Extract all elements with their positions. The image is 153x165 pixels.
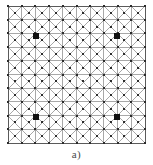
marker-top-right bbox=[114, 33, 120, 39]
figure-caption: a) bbox=[0, 148, 153, 161]
marker-bottom-left bbox=[33, 114, 39, 120]
marker-bottom-right bbox=[114, 114, 120, 120]
marker-top-left bbox=[33, 33, 39, 39]
mesh-diagram bbox=[0, 0, 153, 165]
figure-container: a) bbox=[0, 0, 153, 165]
